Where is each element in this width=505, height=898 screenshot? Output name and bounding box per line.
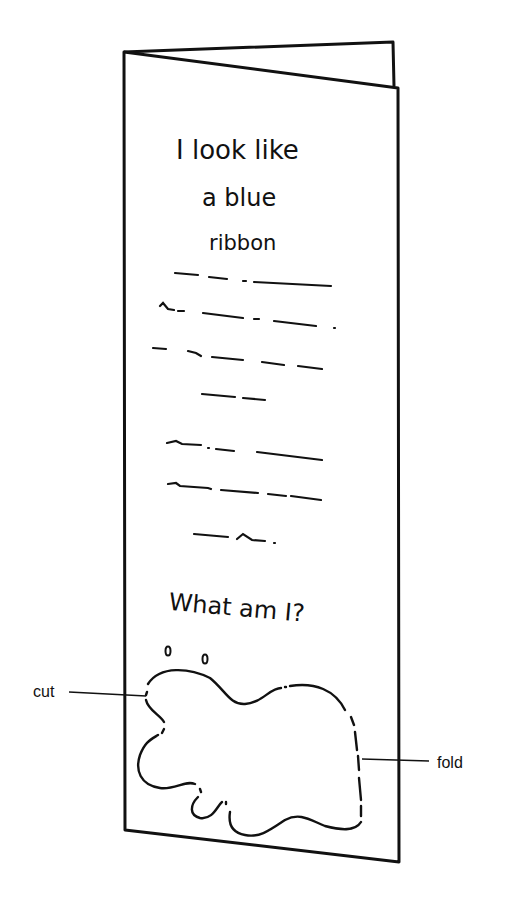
title-line-1: I look like <box>176 135 299 165</box>
cut-label: cut <box>33 683 55 700</box>
fold-label: fold <box>437 754 463 771</box>
title-line-2: a blue <box>202 184 276 212</box>
folded-card-diagram: I look like a blue ribbon What am I? cut <box>0 0 505 898</box>
title-line-3: ribbon <box>209 231 276 255</box>
front-panel <box>124 52 399 862</box>
